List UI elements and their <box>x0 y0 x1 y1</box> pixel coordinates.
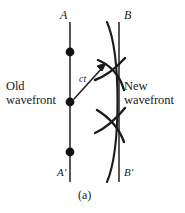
old-wavefront-label: Oldwavefront <box>6 79 56 107</box>
wavelet-envelope-arc <box>107 22 118 182</box>
old-wavefront-label-line1: Old <box>6 79 24 93</box>
label-b: B <box>124 9 132 22</box>
label-b-prime: B′ <box>124 166 134 178</box>
source-point-bottom <box>66 148 75 157</box>
huygens-wavefront-figure: A B A′ B′ ct Oldwavefront Newwavefront (… <box>0 0 185 213</box>
new-wavefront-label-line1: New <box>124 79 147 93</box>
figure-caption: (a) <box>78 189 91 202</box>
ct-arrow-head <box>97 63 106 71</box>
new-wavefront-label: Newwavefront <box>124 79 174 107</box>
label-ct: ct <box>79 74 86 85</box>
new-wavefront-label-line2: wavefront <box>124 93 174 107</box>
source-point-top <box>66 48 75 57</box>
old-wavefront-label-line2: wavefront <box>6 93 56 107</box>
label-a: A <box>60 9 68 22</box>
label-a-prime: A′ <box>57 166 67 178</box>
source-point-middle <box>66 98 75 107</box>
